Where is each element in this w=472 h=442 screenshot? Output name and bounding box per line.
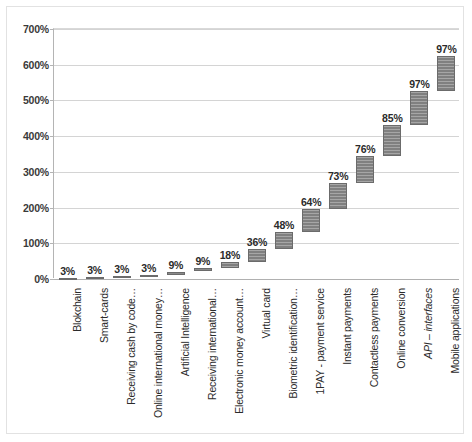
bar-12 [383,125,401,155]
y-axis-tick-label: 600% [23,59,49,71]
gridline-500% [54,100,459,101]
y-axis-tick-label: 400% [23,130,49,142]
x-axis-category-label: Smart-cards [98,288,110,438]
x-axis-category-label: Virtual card [260,288,272,438]
x-axis-category-label: Electronic money account… [233,288,245,438]
x-axis-category-label: Biometric identification… [287,288,299,438]
bar-value-label: 85% [372,112,412,124]
bar-8 [275,232,293,249]
bar-11 [356,156,374,183]
y-axis-tick-label: 200% [23,202,49,214]
y-axis-tick-label: 300% [23,166,49,178]
x-axis-labels: BlokchainSmart-cardsReceiving cash by co… [53,284,459,434]
bar-0 [59,278,77,280]
y-tick-mark [50,279,54,280]
y-axis-tick-label: 500% [23,94,49,106]
bar-value-label: 36% [237,236,277,248]
chart-container: 0%100%200%300%400%500%600%700%3%3%3%3%9%… [6,6,464,434]
gridline-300% [54,172,459,173]
bar-value-label: 76% [345,143,385,155]
bar-value-label: 97% [426,43,466,55]
y-tick-mark [50,29,54,30]
gridline-200% [54,208,459,209]
bar-10 [329,183,347,209]
x-axis-category-label: 1PAY - payment service [314,288,326,438]
y-tick-mark [50,100,54,101]
x-axis-category-label: Mobile applications [449,288,461,438]
x-axis-category-label: Blokchain [71,288,83,438]
bar-9 [302,209,320,232]
bar-value-label: 97% [399,78,439,90]
gridline-0% [54,279,459,280]
bar-1 [86,277,104,279]
bar-5 [194,268,212,271]
plot-area: 0%100%200%300%400%500%600%700%3%3%3%3%9%… [53,28,459,278]
y-tick-mark [50,65,54,66]
x-axis-category-label: Online international money… [152,288,164,438]
x-axis-category-label: Instant payments [341,288,353,438]
bar-3 [140,275,158,277]
y-axis-tick-label: 700% [23,23,49,35]
y-tick-mark [50,172,54,173]
x-axis-category-label: Online conversion [395,288,407,438]
y-tick-mark [50,136,54,137]
y-axis-tick-label: 100% [23,237,49,249]
x-axis-category-label: Receiving cash by code… [125,288,137,438]
bar-value-label: 48% [264,219,304,231]
bar-13 [410,91,428,126]
x-axis-category-label: Receiving international… [206,288,218,438]
bar-value-label: 64% [291,196,331,208]
y-tick-mark [50,243,54,244]
bar-14 [437,56,455,91]
bar-6 [221,262,239,268]
y-tick-mark [50,208,54,209]
gridline-600% [54,65,459,66]
bar-4 [167,272,185,275]
bar-value-label: 18% [210,249,250,261]
bar-value-label: 73% [318,170,358,182]
gridline-700% [54,29,459,30]
bar-7 [248,249,266,262]
x-axis-category-label: Contactless payments [368,288,380,438]
x-axis-category-label: API – interfaces [422,288,434,438]
x-axis-category-label: Artificial Intelligence [179,288,191,438]
bar-2 [113,276,131,278]
